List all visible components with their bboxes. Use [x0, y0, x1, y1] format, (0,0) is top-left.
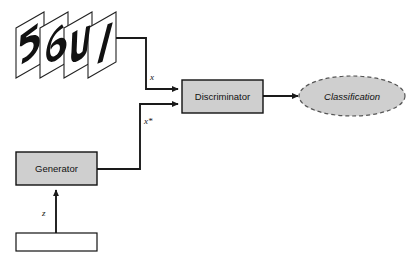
noise-source-node[interactable]: [16, 233, 97, 251]
diagram-canvas: x x* z Discriminator Classification: [0, 0, 415, 273]
edge-noise-to-generator: z: [41, 190, 56, 233]
classification-label: Classification: [324, 91, 380, 102]
diagram-svg: x x* z Discriminator Classification: [0, 0, 415, 273]
generator-label: Generator: [35, 163, 78, 174]
generator-node[interactable]: Generator: [16, 152, 97, 185]
edge-label-x: x: [149, 72, 154, 82]
edge-label-z: z: [41, 208, 46, 218]
discriminator-node[interactable]: Discriminator: [182, 80, 263, 113]
classification-node[interactable]: Classification: [299, 76, 405, 116]
noise-texture-icon: [16, 233, 97, 251]
edge-real-to-discriminator: x: [116, 38, 178, 89]
image-stack: [16, 12, 116, 78]
discriminator-label: Discriminator: [195, 91, 250, 102]
edge-label-x-star: x*: [143, 116, 153, 126]
edge-generator-to-discriminator: x*: [97, 104, 178, 169]
